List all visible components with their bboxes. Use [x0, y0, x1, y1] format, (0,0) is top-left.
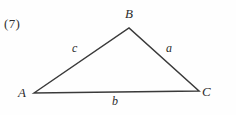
vertex-label-a: A [18, 86, 26, 99]
side-label-b: b [112, 95, 118, 107]
side-label-a: a [166, 42, 172, 54]
triangle-drawing [0, 0, 236, 115]
figure-index-label: (7) [4, 17, 20, 30]
side-label-c: c [72, 42, 77, 54]
figure-background [0, 0, 236, 115]
vertex-label-c: C [202, 85, 211, 98]
vertex-label-b: B [125, 7, 133, 20]
triangle-figure: (7) A B C a b c [0, 0, 236, 115]
